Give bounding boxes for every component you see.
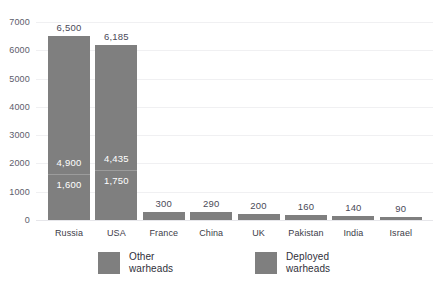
bar-group-russia[interactable]: 4,9001,6006,500Russia: [48, 22, 90, 220]
y-axis-tick-0: 0: [0, 215, 30, 225]
bar-stack: [332, 216, 374, 220]
bar-group-india[interactable]: 140India: [332, 22, 374, 220]
legend-swatch-deployed-warheads: [255, 252, 277, 274]
y-axis-tick-3000: 3000: [0, 130, 30, 140]
gridline-0: [36, 220, 433, 221]
bar-group-france[interactable]: 300France: [143, 22, 185, 220]
legend-item-deployed-warheads[interactable]: Deployed warheads: [255, 251, 330, 275]
bar-segment-value-deployed: 1,600: [48, 179, 90, 190]
legend-label-deployed-warheads: Deployed warheads: [286, 251, 330, 275]
bar-segment-other-warheads[interactable]: 4,435: [95, 45, 137, 170]
plot-area: 010002000300040005000600070004,9001,6006…: [36, 22, 433, 220]
legend-swatch-other-warheads: [98, 252, 120, 274]
bar-stack: 4,9001,600: [48, 36, 90, 220]
legend-label-line1: Deployed: [286, 251, 330, 263]
y-axis-tick-1000: 1000: [0, 187, 30, 197]
bar-total-label-israel: 90: [368, 203, 434, 214]
bar-segment-deployed-warheads[interactable]: 1,750: [95, 171, 137, 221]
bar-segment-other-warheads[interactable]: [190, 212, 232, 220]
legend-label-other-warheads: Other warheads: [129, 251, 173, 275]
bar-stack: [380, 217, 422, 220]
bar-group-pakistan[interactable]: 160Pakistan: [285, 22, 327, 220]
chart-legend: Other warheads Deployed warheads: [0, 248, 437, 284]
bar-segment-other-warheads[interactable]: [285, 215, 327, 220]
bar-segment-value-deployed: 1,750: [95, 175, 137, 186]
legend-label-line2: warheads: [286, 263, 330, 275]
legend-label-line1: Other: [129, 251, 173, 263]
bar-stack: [285, 215, 327, 220]
bar-stack: [238, 214, 280, 220]
y-axis-tick-2000: 2000: [0, 158, 30, 168]
bar-stack: [143, 212, 185, 220]
bar-segment-value-other: 4,435: [95, 153, 137, 164]
bar-total-label-usa: 6,185: [83, 31, 149, 42]
bar-segment-other-warheads[interactable]: [332, 216, 374, 220]
legend-label-line2: warheads: [129, 263, 173, 275]
x-axis-label-israel: Israel: [366, 228, 436, 238]
bar-segment-other-warheads[interactable]: [143, 212, 185, 220]
y-axis-tick-4000: 4000: [0, 102, 30, 112]
y-axis-tick-5000: 5000: [0, 74, 30, 84]
bar-stack: [190, 212, 232, 220]
y-axis-tick-6000: 6000: [0, 45, 30, 55]
bar-group-uk[interactable]: 200UK: [238, 22, 280, 220]
bar-stack: 4,4351,750: [95, 45, 137, 220]
bar-group-israel[interactable]: 90Israel: [380, 22, 422, 220]
bar-group-china[interactable]: 290China: [190, 22, 232, 220]
bar-segment-deployed-warheads[interactable]: 1,600: [48, 175, 90, 220]
bar-segment-other-warheads[interactable]: [380, 217, 422, 220]
bar-segment-other-warheads[interactable]: 4,900: [48, 36, 90, 175]
y-axis-tick-7000: 7000: [0, 17, 30, 27]
bar-group-usa[interactable]: 4,4351,7506,185USA: [95, 22, 137, 220]
bar-segment-value-other: 4,900: [48, 157, 90, 168]
bar-chart: 010002000300040005000600070004,9001,6006…: [0, 0, 437, 284]
legend-item-other-warheads[interactable]: Other warheads: [98, 251, 173, 275]
bar-segment-other-warheads[interactable]: [238, 214, 280, 220]
